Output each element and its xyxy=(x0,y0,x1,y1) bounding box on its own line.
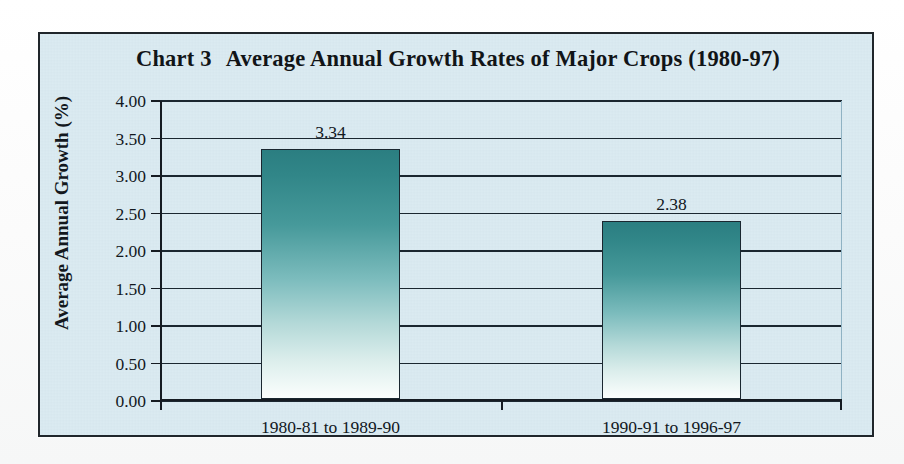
y-axis-tick-label: 0.50 xyxy=(115,353,146,374)
bar-value-label: 3.34 xyxy=(315,122,346,143)
y-axis-tick xyxy=(151,250,160,252)
y-axis-tick-label: 2.00 xyxy=(115,241,146,262)
page-title: Chart 3Average Annual Growth Rates of Ma… xyxy=(40,46,876,72)
x-axis-category-label: 1990-91 to 1996-97 xyxy=(602,417,741,438)
bar[interactable] xyxy=(602,221,741,400)
chart-number-label: Chart 3 xyxy=(136,46,212,71)
y-axis-tick-label: 2.50 xyxy=(115,203,146,224)
x-axis-tick xyxy=(840,401,842,410)
y-axis-tick-label: 4.00 xyxy=(115,91,146,112)
y-axis-tick xyxy=(151,175,160,177)
y-axis-spine xyxy=(160,101,162,401)
y-axis-tick-label: 1.00 xyxy=(115,316,146,337)
page-background: Chart 3Average Annual Growth Rates of Ma… xyxy=(0,0,904,464)
plot-area: 0.000.501.001.502.002.503.003.504.003.34… xyxy=(160,101,842,401)
y-axis-tick-label: 1.50 xyxy=(115,278,146,299)
y-axis-tick xyxy=(151,325,160,327)
x-axis-tick xyxy=(501,401,503,410)
x-axis-tick xyxy=(160,401,162,410)
y-axis-tick xyxy=(151,363,160,365)
plot-right-edge xyxy=(841,101,842,401)
y-axis-title: Average Annual Growth (%) xyxy=(51,63,73,363)
bar-value-label: 2.38 xyxy=(656,194,687,215)
y-axis-tick xyxy=(151,213,160,215)
y-axis-tick-label: 3.00 xyxy=(115,166,146,187)
y-axis-tick xyxy=(151,138,160,140)
y-axis-tick xyxy=(151,288,160,290)
gridline xyxy=(160,100,842,102)
y-axis-tick-label: 3.50 xyxy=(115,128,146,149)
bar[interactable] xyxy=(261,149,400,400)
chart-title-text: Average Annual Growth Rates of Major Cro… xyxy=(226,46,780,71)
y-axis-tick xyxy=(151,400,160,402)
chart-figure-frame: Chart 3Average Annual Growth Rates of Ma… xyxy=(38,32,874,437)
y-axis-tick-label: 0.00 xyxy=(115,391,146,412)
y-axis-tick xyxy=(151,100,160,102)
gridline xyxy=(160,138,842,140)
x-axis-category-label: 1980-81 to 1989-90 xyxy=(261,417,400,438)
